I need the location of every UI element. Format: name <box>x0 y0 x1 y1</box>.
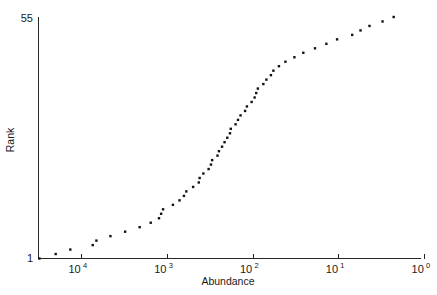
x-axis-ticks: 104103102101100 <box>68 254 430 276</box>
rank-abundance-figure: 104103102101100 155 Rank Abundance <box>0 0 437 295</box>
data-point <box>244 110 246 112</box>
data-point <box>185 190 187 192</box>
data-point <box>234 123 236 125</box>
data-point <box>183 195 185 197</box>
data-point <box>246 105 248 107</box>
x-axis-tick-exponent: 0 <box>426 261 430 270</box>
data-point <box>69 248 71 250</box>
data-point <box>178 199 180 201</box>
data-point <box>359 29 361 31</box>
data-point <box>278 65 280 67</box>
y-axis-tick-label: 55 <box>21 12 33 24</box>
x-axis-title: Abundance <box>201 275 254 287</box>
data-point <box>265 78 267 80</box>
x-axis-tick-label: 10 <box>68 263 80 275</box>
x-axis-tick-label: 10 <box>412 263 424 275</box>
data-point <box>138 226 140 228</box>
data-point <box>351 34 353 36</box>
x-axis-tick-exponent: 3 <box>169 261 173 270</box>
data-point <box>325 43 327 45</box>
data-point <box>223 141 225 143</box>
data-point <box>226 137 228 139</box>
data-point <box>202 172 204 174</box>
data-point <box>92 244 94 246</box>
data-point <box>392 16 394 18</box>
axes-group <box>38 17 421 259</box>
data-point <box>211 159 213 161</box>
data-point <box>368 25 370 27</box>
data-point <box>207 168 209 170</box>
x-axis-tick-exponent: 2 <box>255 261 259 270</box>
data-point <box>336 38 338 40</box>
data-point <box>253 96 255 98</box>
data-point <box>381 20 383 22</box>
data-point <box>293 56 295 58</box>
data-point <box>54 253 56 255</box>
data-point <box>172 204 174 206</box>
x-axis-tick-exponent: 4 <box>83 261 87 270</box>
data-point <box>314 47 316 49</box>
data-point <box>198 181 200 183</box>
y-axis-title: Rank <box>4 127 16 152</box>
data-point <box>162 208 164 210</box>
data-point <box>284 61 286 63</box>
data-point <box>150 222 152 224</box>
data-point <box>216 154 218 156</box>
x-axis-tick-exponent: 1 <box>340 261 344 270</box>
data-point <box>221 145 223 147</box>
data-point <box>160 213 162 215</box>
data-point <box>262 83 264 85</box>
data-point <box>198 177 200 179</box>
data-point <box>218 150 220 152</box>
data-point <box>239 114 241 116</box>
data-point <box>230 128 232 130</box>
data-point <box>109 235 111 237</box>
data-point <box>192 186 194 188</box>
data-point <box>38 257 40 259</box>
data-point <box>302 52 304 54</box>
data-point <box>270 74 272 76</box>
data-point <box>255 92 257 94</box>
data-point <box>257 87 259 89</box>
x-axis-tick-label: 10 <box>326 263 338 275</box>
y-axis-ticks: 155 <box>21 12 33 264</box>
data-point <box>229 132 231 134</box>
x-axis-tick-label: 10 <box>154 263 166 275</box>
data-point <box>237 119 239 121</box>
y-axis-tick-label: 1 <box>27 252 33 264</box>
data-point <box>124 230 126 232</box>
x-axis-tick-label: 10 <box>240 263 252 275</box>
data-point <box>210 163 212 165</box>
scatter-plot-svg: 104103102101100 155 Rank Abundance <box>0 0 437 295</box>
data-point <box>158 217 160 219</box>
data-point <box>250 101 252 103</box>
data-points-group <box>38 16 395 260</box>
data-point <box>95 239 97 241</box>
data-point <box>272 69 274 71</box>
